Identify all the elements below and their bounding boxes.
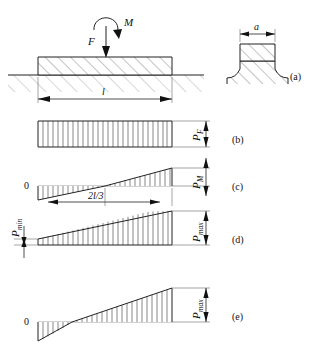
moment-arrowhead xyxy=(113,29,122,39)
pe-max-subscript: max xyxy=(196,299,205,312)
panel-label-b: (b) xyxy=(232,134,244,146)
pd-min-label-group: P min xyxy=(9,219,24,239)
span-label: l xyxy=(102,86,105,97)
pc-pressure-subscript: M xyxy=(196,175,205,183)
pc-pressure-label-group: P M xyxy=(190,175,205,190)
panel-a-elevation: F M l xyxy=(8,16,301,103)
panel-label-d: (d) xyxy=(232,234,244,246)
pc-pressure-label: P xyxy=(190,182,202,190)
pb-pressure-label: P xyxy=(190,134,202,142)
pb-pressure-subscript: F xyxy=(196,129,205,135)
panel-c-moment-pressure: 0 2l/3 P M (c) xyxy=(24,158,243,206)
force-arrowhead xyxy=(102,46,110,58)
footing-hatch xyxy=(38,57,172,75)
pb-pressure-label-group: P F xyxy=(190,129,205,142)
section-detail-a: a xyxy=(226,21,290,86)
pressure-distribution-figure: F M l xyxy=(0,0,320,353)
force-label: F xyxy=(87,35,95,47)
pd-max-subscript: max xyxy=(196,222,205,235)
pd-min-subscript: min xyxy=(15,219,24,231)
moment-label: M xyxy=(123,16,134,28)
panel-d-combined-pressure: P min P max (d) xyxy=(9,211,244,258)
panel-label-e: (e) xyxy=(232,311,243,323)
panel-e-uplift-pressure: 0 P max (e) xyxy=(24,288,243,341)
pd-max-label: P xyxy=(190,235,202,243)
force-arrow-F xyxy=(102,26,110,58)
figure-container: F M l xyxy=(0,0,320,353)
pd-max-label-group: P max xyxy=(190,222,205,243)
width-label: a xyxy=(254,21,259,32)
pe-max-label: P xyxy=(190,312,202,320)
moment-arc-M xyxy=(94,18,122,39)
pd-min-label: P xyxy=(9,230,21,238)
pe-max-label-group: P max xyxy=(190,299,205,320)
panel-label-c: (c) xyxy=(232,181,243,193)
panel-label-a: (a) xyxy=(290,71,301,83)
pc-third-label: 2l/3 xyxy=(88,190,104,201)
pc-zero-label: 0 xyxy=(24,180,29,191)
panel-b-uniform-pressure: P F (b) xyxy=(38,121,244,147)
pe-zero-label: 0 xyxy=(24,316,29,327)
soil-hatch-main xyxy=(8,75,204,92)
